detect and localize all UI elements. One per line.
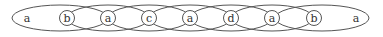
- node-6: a: [265, 11, 280, 26]
- node-label: a: [187, 12, 194, 25]
- node-5: d: [224, 11, 239, 26]
- node-label: b: [63, 12, 70, 25]
- node-label: d: [227, 12, 234, 25]
- node-label: a: [105, 12, 112, 25]
- node-3: c: [142, 11, 157, 26]
- node-label: a: [24, 12, 31, 25]
- node-8: a: [353, 12, 360, 25]
- ellipse-chain-diagram: abacadaba: [0, 0, 383, 37]
- node-2: a: [101, 11, 116, 26]
- node-label: a: [269, 12, 276, 25]
- node-4: a: [183, 11, 198, 26]
- node-0: a: [24, 12, 31, 25]
- node-7: b: [307, 11, 322, 26]
- node-label: b: [310, 12, 317, 25]
- node-label: c: [146, 12, 152, 25]
- node-label: a: [353, 12, 360, 25]
- node-1: b: [60, 11, 75, 26]
- nodes-group: abacadaba: [24, 11, 360, 26]
